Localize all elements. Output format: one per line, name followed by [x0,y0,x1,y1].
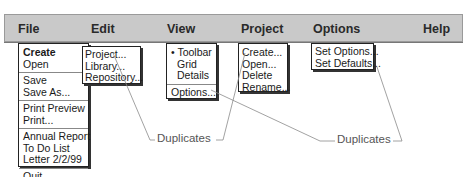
leader-lines [0,0,468,177]
leader-line-project [113,53,157,140]
leader-line-set-options [377,67,402,141]
leader-line-create [216,53,245,140]
annotation-duplicates-right: Duplicates [335,133,393,145]
annotation-duplicates-left: Duplicates [155,132,213,144]
